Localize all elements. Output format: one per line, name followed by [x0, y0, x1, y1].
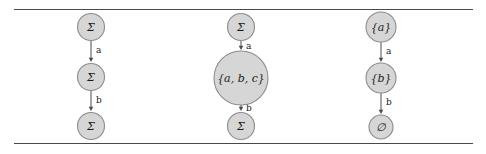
- right-node-2: {b}: [366, 63, 396, 93]
- left-node-2: Σ: [78, 64, 105, 91]
- column-middle: abΣ{a, b, c}Σ: [214, 14, 268, 140]
- state-node-label: {b}: [370, 72, 391, 85]
- state-diagram-canvas: abΣΣΣabΣ{a, b, c}Σab{a}{b}∅: [0, 0, 486, 154]
- state-node-label: Σ: [86, 120, 95, 133]
- right-edge-b: b: [379, 93, 392, 114]
- edge-arrowhead-icon: [89, 107, 94, 111]
- state-node-label: Σ: [86, 21, 95, 34]
- state-node-label: Σ: [236, 120, 245, 133]
- left-node-3: Σ: [78, 113, 105, 140]
- right-node-1: {a}: [366, 12, 396, 42]
- edge-arrowhead-icon: [239, 107, 244, 111]
- edge-arrowhead-icon: [239, 46, 244, 50]
- edge-arrowhead-icon: [379, 58, 384, 62]
- column-right: ab{a}{b}∅: [366, 12, 396, 139]
- left-edge-b: b: [89, 91, 102, 111]
- edge-label: b: [386, 97, 392, 107]
- left-node-1: Σ: [78, 14, 105, 41]
- state-node-label: {a, b, c}: [217, 72, 265, 85]
- right-edge-a: a: [379, 42, 392, 62]
- state-node-label: {a}: [371, 21, 392, 34]
- state-node-label: ∅: [376, 121, 386, 134]
- automaton-figure: abΣΣΣabΣ{a, b, c}Σab{a}{b}∅: [0, 0, 486, 154]
- state-node-label: Σ: [236, 21, 245, 34]
- edge-arrowhead-icon: [379, 110, 384, 114]
- mid-node-2: {a, b, c}: [214, 51, 268, 105]
- edge-label: a: [386, 46, 392, 56]
- mid-edge-a: a: [239, 41, 252, 51]
- column-left: abΣΣΣ: [78, 14, 105, 140]
- mid-node-1: Σ: [228, 14, 255, 41]
- left-edge-a: a: [89, 41, 102, 62]
- edge-arrowhead-icon: [89, 58, 94, 62]
- mid-node-3: Σ: [228, 113, 255, 140]
- edge-label: a: [246, 41, 252, 51]
- right-node-3: ∅: [369, 115, 393, 139]
- edge-label: a: [96, 45, 102, 55]
- state-node-label: Σ: [86, 71, 95, 84]
- edge-label: b: [96, 95, 102, 105]
